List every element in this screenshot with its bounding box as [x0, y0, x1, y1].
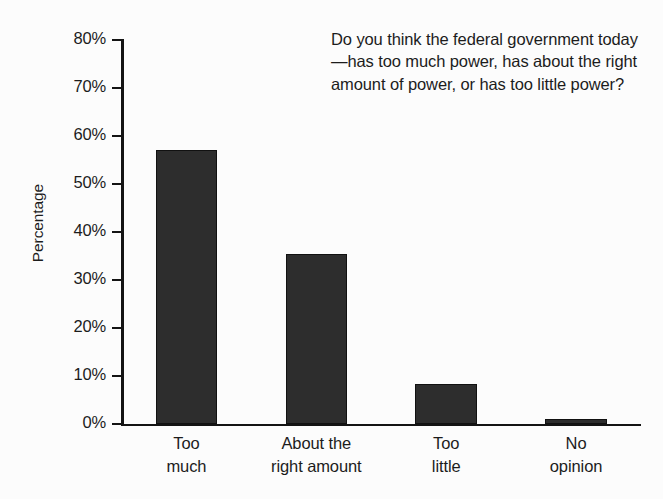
bar: [156, 150, 218, 424]
y-axis-tick-label: 30%: [44, 269, 106, 288]
bar: [545, 419, 607, 424]
y-axis-tick-label: 10%: [44, 365, 106, 384]
x-axis-tick-label: Too much: [111, 432, 261, 478]
y-axis-tick-label: 80%: [44, 29, 106, 48]
x-axis-tick-label: No opinion: [501, 432, 651, 478]
y-axis-tick-label: 20%: [44, 317, 106, 336]
bar: [415, 384, 477, 424]
y-axis-tick-label: 0%: [44, 413, 106, 432]
y-axis-tick-label: 40%: [44, 221, 106, 240]
bar: [286, 254, 348, 424]
y-axis-tick-label: 70%: [44, 77, 106, 96]
x-axis-tick-label: About the right amount: [241, 432, 391, 478]
y-axis-tick-label: 50%: [44, 173, 106, 192]
y-axis-tick-labels: 0%10%20%30%40%50%60%70%80%: [44, 0, 106, 499]
y-axis-line: [121, 39, 124, 426]
y-axis-tick-label: 60%: [44, 125, 106, 144]
question-annotation-text: Do you think the federal government toda…: [331, 28, 641, 95]
x-axis-tick-label: Too little: [371, 432, 521, 478]
bar-chart-figure: Do you think the federal government toda…: [0, 0, 663, 499]
